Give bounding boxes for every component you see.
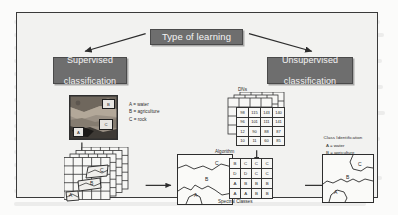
supervised-classification-box: Supervised classification [53,57,127,84]
spectral-cell: C [262,169,273,179]
stack-sample-a-label: A [69,192,72,198]
spectral-grid-row: D D C C [230,169,273,179]
map-right-label-a: A [334,189,337,195]
map-left-label-c: C [215,160,219,166]
map-right-label-b: B [346,174,349,180]
raster-layer-stack-left: C B A [64,147,138,203]
unsupervised-box-label: Unsupervised classification [270,55,350,87]
training-sample-b: B [102,99,115,109]
spectral-grid-row: A A B B [230,189,273,199]
training-sample-a-label: A [77,130,80,135]
spectral-cell: C [240,159,251,169]
spectral-classes-grid: B C C C D D C C A B [229,158,273,198]
spectral-cell: A [230,189,241,199]
map-left-label-b: B [205,176,208,182]
spectral-cell: B [240,179,251,189]
dn-cell: 96 [237,117,249,127]
dn-cell: 98 [237,108,249,118]
unsupervised-classification-box: Unsupervised classification [267,57,353,84]
spectral-grid-table: B C C C D D C C A B [229,158,273,199]
spectral-cell: B [251,179,262,189]
training-sample-b-label: B [107,102,110,107]
spectral-cell: A [230,179,241,189]
legend-left-item-b: B = agriculture [129,108,177,115]
dn-grid-row: 12 90 88 87 [237,127,285,137]
figure-frame: Type of learning Supervised classificati… [16,12,378,198]
spectral-cell: B [262,189,273,199]
training-sample-c-label: C [104,122,107,127]
spectral-cell: A [240,189,251,199]
satellite-image-thumbnail: B C A [69,95,118,140]
dn-cell: 90 [249,127,261,137]
stack-sample-c-label: C [100,167,104,173]
dn-layer-stack: 98 115 143 140 96 101 111 141 12 [222,92,288,146]
spectral-cell: C [251,159,262,169]
spectral-cell: D [240,169,251,179]
dn-grid-row: 96 101 111 141 [237,117,285,127]
supervised-box-label: Supervised classification [56,55,124,87]
dn-grid-body: 98 115 143 140 96 101 111 141 12 [237,108,285,146]
class-legend-left: A = water B = agriculture C = rock [129,101,177,123]
dn-cell: 88 [261,127,273,137]
dn-grid-row: 98 115 143 140 [237,108,285,118]
class-identification-title: Class Identification [313,134,373,141]
dn-grid-row: 10 11 60 85 [237,136,285,146]
spectral-cell: D [230,169,241,179]
map-right-label-c: C [358,161,362,167]
dn-cell: 12 [237,127,249,137]
title-box: Type of learning [150,29,243,45]
spectral-cell: C [262,159,273,169]
unsupervised-line-1: Unsupervised [270,55,350,66]
stack-sample-b-label: B [90,180,93,186]
spectral-grid-body: B C C C D D C C A B [230,159,273,199]
dn-cell: 101 [249,117,261,127]
unsupervised-line-2: classification [270,76,350,87]
training-sample-c: C [99,119,113,130]
legend-left-item-c: C = rock [129,116,177,123]
dn-cell: 115 [249,108,261,118]
dn-cell: 87 [273,127,285,137]
spectral-grid-row: A B B B [230,179,273,189]
supervised-line-2: classification [56,76,124,87]
spectral-grid-row: B C C C [230,159,273,169]
figure-canvas: Type of learning Supervised classificati… [0,0,398,215]
legend-left-item-a: A = water [129,101,177,108]
training-sample-a: A [73,127,84,137]
dn-cell: 11 [249,136,261,146]
classified-map-left: C B A [177,154,233,205]
spectral-cell: B [230,159,241,169]
dn-cell: 141 [273,117,285,127]
dn-cell: 111 [261,117,273,127]
dn-value-grid: 98 115 143 140 96 101 111 141 12 [236,107,285,146]
legend-right-item-a: A = water [326,142,373,149]
supervised-line-1: Supervised [56,55,124,66]
raster-stack-drawing [64,147,138,203]
dn-cell: 60 [261,136,273,146]
spectral-cell: B [251,189,262,199]
spectral-cell: B [262,179,273,189]
classified-map-right: C B A [322,154,374,203]
spectral-classes-label: Spectral Classes [218,199,252,204]
spectral-cell: C [251,169,262,179]
dn-cell: 10 [237,136,249,146]
algorithm-label: Algorithm [215,149,234,154]
map-left-label-a: A [194,192,197,198]
title-box-label: Type of learning [151,31,242,42]
dn-cell: 143 [261,108,273,118]
dn-cell: 85 [273,136,285,146]
dn-cell: 140 [273,108,285,118]
